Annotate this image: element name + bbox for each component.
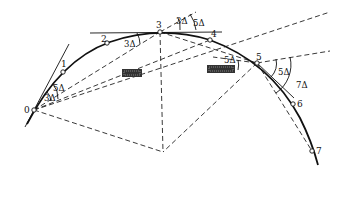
angle-label-2-3: 3Δ (124, 39, 136, 49)
angle-label-0-5: 5Δ (53, 83, 65, 93)
curve-diagram: 0 1 2 3 4 5 6 7 3Δ 5Δ 3Δ 3Δ 5Δ 5Δ 5Δ 7Δ (0, 0, 339, 197)
obstacle-right (207, 65, 235, 73)
radius-0 (34, 110, 163, 152)
chord-3-5 (160, 32, 257, 63)
angle-label-5-back: 5Δ (224, 55, 236, 65)
angle-arc-5a (238, 60, 239, 70)
radius-5 (163, 63, 257, 152)
point-1 (61, 70, 65, 74)
radius-3 (160, 32, 163, 152)
point-7 (310, 149, 314, 153)
obstacle-left (122, 69, 142, 77)
circular-curve (27, 33, 318, 165)
ray-5-ext (257, 51, 330, 63)
label-point-4: 4 (211, 29, 217, 39)
angle-label-5-7: 7Δ (296, 80, 308, 90)
label-point-7: 7 (316, 146, 322, 156)
label-point-2: 2 (101, 34, 107, 44)
angle-label-5-5: 5Δ (278, 67, 290, 77)
angle-label-3-5: 5Δ (193, 18, 205, 28)
label-point-1: 1 (61, 59, 67, 69)
label-point-0: 0 (24, 105, 30, 115)
point-6 (291, 102, 295, 106)
angle-label-3-3: 3Δ (176, 16, 188, 26)
label-point-5: 5 (256, 52, 262, 62)
label-point-3: 3 (156, 20, 162, 30)
point-3 (158, 30, 162, 34)
label-point-6: 6 (297, 99, 303, 109)
angle-label-0-3: 3Δ (44, 93, 56, 103)
point-0 (32, 108, 36, 112)
angle-arc-5b (271, 59, 276, 77)
